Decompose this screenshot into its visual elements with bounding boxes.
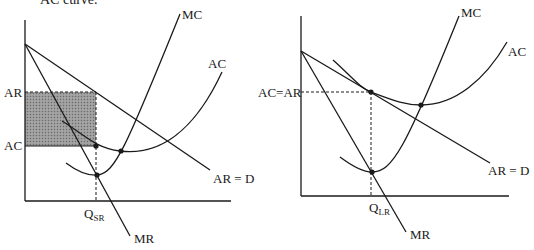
- demand-label: AR = D: [488, 164, 529, 177]
- ac-curve-label: AC: [208, 57, 226, 70]
- profit-area: [25, 92, 96, 146]
- diagram-canvas: [0, 0, 534, 250]
- mr-curve: [301, 51, 406, 232]
- mc-label: MC: [461, 6, 481, 19]
- ar-axis-label: AR: [4, 86, 22, 99]
- left-panel: [25, 14, 231, 236]
- ac-curve: [333, 42, 507, 105]
- demand-label: AR = D: [213, 172, 254, 185]
- right-panel: [301, 16, 509, 232]
- mc-label: MC: [182, 8, 202, 21]
- mr-label: MR: [410, 228, 430, 241]
- acar-axis-label: AC=AR: [258, 86, 301, 99]
- mr-label: MR: [134, 232, 154, 245]
- ac-curve-label: AC: [508, 45, 526, 58]
- ac-axis-label: AC: [4, 139, 22, 152]
- q-sr-label: QSR: [84, 207, 104, 220]
- demand-curve: [301, 51, 490, 163]
- q-lr-label: QLR: [369, 201, 390, 214]
